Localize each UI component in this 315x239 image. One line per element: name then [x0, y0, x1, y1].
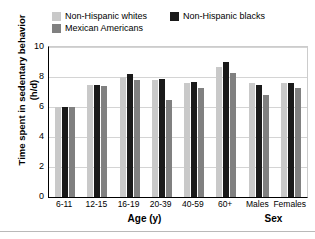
- x-axis-tick-label: 60+: [209, 199, 241, 211]
- y-axis-tick-label: 4: [28, 131, 44, 141]
- bar: [134, 80, 140, 197]
- chart-figure: Non-Hispanic whitesNon-Hispanic blacksMe…: [0, 0, 315, 239]
- bar: [152, 80, 158, 197]
- bar-group: [49, 47, 81, 197]
- bar: [87, 85, 93, 198]
- bar-group: [81, 47, 113, 197]
- x-axis-tick-label: 16-19: [112, 199, 144, 211]
- bar: [230, 73, 236, 198]
- bar: [159, 79, 165, 198]
- x-axis-tick-label: 12-15: [80, 199, 112, 211]
- bar: [69, 107, 75, 197]
- x-axis-tick-label: Males: [241, 199, 273, 211]
- bar: [166, 100, 172, 198]
- bar: [281, 83, 287, 197]
- y-axis-tick-label: 10: [28, 41, 44, 51]
- bar: [101, 86, 107, 197]
- x-axis-title-age: Age (y): [48, 213, 241, 224]
- bar: [191, 82, 197, 198]
- bar: [127, 74, 133, 197]
- bar-groups: [49, 47, 307, 197]
- bar-group: [275, 47, 307, 197]
- bar-group: [146, 47, 178, 197]
- y-axis-tick-label: 0: [28, 191, 44, 201]
- bar: [223, 62, 229, 197]
- bar: [120, 77, 126, 197]
- plot-area: [48, 46, 308, 198]
- plot-wrapper: Time spent in sedentary behavior (h/d) 0…: [0, 0, 315, 239]
- bar: [184, 83, 190, 197]
- y-axis-tick-label: 2: [28, 161, 44, 171]
- x-axis-titles: Age (y) Sex: [48, 213, 306, 227]
- bottom-rule: [0, 231, 315, 232]
- x-axis-tick-label: Females: [273, 199, 306, 211]
- x-axis-tick-label: 20-39: [145, 199, 177, 211]
- x-axis-tick-labels: 6-1112-1516-1920-3940-5960+MalesFemales: [48, 199, 306, 211]
- bar: [263, 95, 269, 197]
- x-axis-title-sex: Sex: [241, 213, 306, 224]
- bar: [249, 83, 255, 197]
- bar: [256, 85, 262, 198]
- y-axis-tick-label: 8: [28, 71, 44, 81]
- bar: [288, 83, 294, 197]
- bar-group: [114, 47, 146, 197]
- bar: [62, 107, 68, 197]
- x-axis-tick-label: 6-11: [48, 199, 80, 211]
- bar: [94, 85, 100, 198]
- bar-group: [178, 47, 210, 197]
- bar: [198, 88, 204, 198]
- y-axis-tick-label: 6: [28, 101, 44, 111]
- bar: [55, 107, 61, 197]
- bar: [295, 88, 301, 198]
- y-axis-tick-labels: 0246810: [28, 41, 44, 196]
- bar-group: [243, 47, 275, 197]
- x-axis-tick-label: 40-59: [177, 199, 209, 211]
- bar-group: [210, 47, 242, 197]
- bar: [216, 67, 222, 198]
